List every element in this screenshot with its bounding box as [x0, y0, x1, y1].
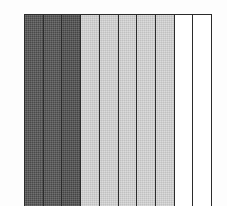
- bar-2: [44, 15, 63, 206]
- bar-8: [156, 15, 175, 206]
- plot-area: [24, 14, 212, 206]
- bar-1: [25, 15, 44, 206]
- bar-4: [81, 15, 100, 206]
- bar-3: [62, 15, 81, 206]
- bar-9: [175, 15, 194, 206]
- bar-5: [100, 15, 119, 206]
- bar-6: [119, 15, 138, 206]
- bar-chart-figure: [0, 0, 227, 206]
- bar-7: [137, 15, 156, 206]
- bar-10: [193, 15, 211, 206]
